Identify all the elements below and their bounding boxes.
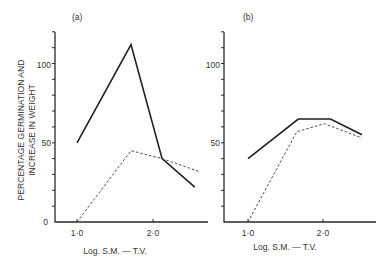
panel-a: (a) 0 50 100 1·0 2·0 Log. S.M. — T.V. [37,12,208,256]
panel-a-dashed-line [77,151,199,222]
y-axis-label: PERCENTAGE GERMINATION AND INCREASE IN W… [16,59,37,200]
panel-a-ytick-0: 0 [43,217,48,227]
panel-b-dashed-line [248,124,362,222]
panel-b-label: (b) [243,12,254,22]
y-axis-label-line2: INCREASE IN WEIGHT [27,83,37,175]
panel-b-solid-line [248,119,362,159]
panel-b-ytick-50: 50 [211,138,221,148]
panel-a-xtick-2: 2·0 [147,228,160,238]
y-axis-label-line1: PERCENTAGE GERMINATION AND [16,59,26,200]
panel-b-xtick-2: 2·0 [317,228,330,238]
panel-a-xtick-1: 1·0 [71,228,84,238]
panel-a-solid-line [77,45,195,188]
panel-b-ytick-100: 100 [206,60,220,70]
panel-a-x-axis-label: Log. S.M. — T.V. [83,246,146,256]
panel-b: (b) 50 100 1·0 2·0 Log. S.M. — T.V. [206,12,376,252]
panel-b-x-axis-label: Log. S.M. — T.V. [253,242,316,252]
panel-a-ytick-100: 100 [37,60,51,70]
panel-a-axes [55,32,208,222]
panel-b-xtick-1: 1·0 [242,228,255,238]
panel-a-ytick-50: 50 [42,138,52,148]
panel-b-axes [224,32,376,222]
figure: PERCENTAGE GERMINATION AND INCREASE IN W… [0,0,385,271]
panel-a-label: (a) [72,12,83,22]
